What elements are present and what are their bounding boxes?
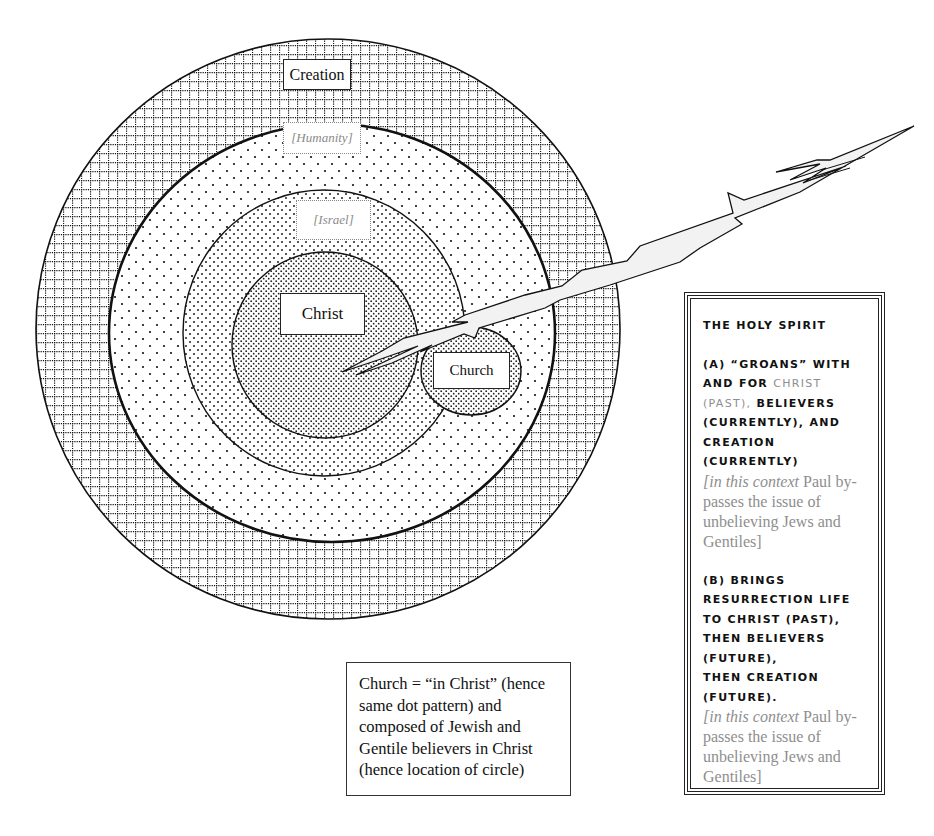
creation-label: Creation [283, 59, 351, 90]
note-line: Gentile believers in Christ [359, 738, 562, 760]
section-b-line: then believers [703, 629, 871, 649]
section-a-text: and for [703, 377, 768, 390]
section-b-line: (future), [703, 649, 871, 669]
section-b-line: (future). [703, 688, 871, 708]
section-a-text: believers [756, 397, 835, 410]
bracket-italic: [in this context [703, 708, 799, 725]
note-line: composed of Jewish and [359, 716, 562, 738]
note-line: Church = “in Christ” (hence [359, 673, 562, 695]
holy-spirit-title: The Holy Spirit [703, 316, 871, 336]
section-a-line: (currently) [703, 452, 871, 472]
note-line: same dot pattern) and [359, 695, 562, 717]
section-a-line: (currently), and [703, 413, 871, 433]
bracket-line: Gentiles] [703, 767, 871, 787]
section-b-bracket-note: [in this context Paul by- passes the iss… [703, 707, 871, 787]
israel-label: [Israel] [296, 200, 371, 240]
section-a-bracket-note: [in this context Paul by- passes the iss… [703, 472, 871, 552]
bracket-italic: [in this context [703, 473, 799, 490]
section-a-line: (A) “Groans” with [703, 355, 871, 375]
bracket-line: Paul by- [799, 708, 857, 725]
church-note-box: Church = “in Christ” (hence same dot pat… [346, 662, 571, 796]
bracket-line: passes the issue of [703, 727, 871, 747]
bracket-line: unbelieving Jews and [703, 512, 871, 532]
section-b: (B) brings resurrection life to Christ (… [703, 571, 871, 708]
bracket-line: passes the issue of [703, 492, 871, 512]
section-b-line: to Christ (past), [703, 610, 871, 630]
bracket-line: unbelieving Jews and [703, 747, 871, 767]
christ-gray-text: Christ [773, 377, 821, 390]
holy-spirit-box: The Holy Spirit (A) “Groans” with and fo… [684, 292, 885, 795]
section-a: (A) “Groans” with and for Christ (past),… [703, 355, 871, 472]
church-label: Church [433, 352, 510, 389]
bracket-line: Gentiles] [703, 532, 871, 552]
christ-label: Christ [280, 293, 365, 335]
section-a-line: creation [703, 433, 871, 453]
section-a-line: (past), believers [703, 394, 871, 414]
christ-circle [232, 252, 418, 438]
section-b-line: resurrection life [703, 590, 871, 610]
note-line: (hence location of circle) [359, 759, 562, 781]
humanity-label: [Humanity] [283, 122, 361, 154]
section-b-line: (B) brings [703, 571, 871, 591]
section-a-line: and for Christ [703, 374, 871, 394]
bracket-line: Paul by- [799, 473, 857, 490]
past-gray-text: (past), [703, 397, 751, 410]
section-b-line: then creation [703, 668, 871, 688]
